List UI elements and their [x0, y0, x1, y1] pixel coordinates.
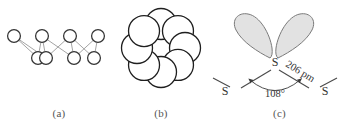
atom-label-left-s: S [222, 84, 229, 98]
chain-atom-circle [64, 30, 77, 43]
zigzag-chain-svg [0, 0, 118, 100]
atom-label-center-s: S [272, 55, 279, 69]
atom-label-right-s: S [322, 84, 329, 98]
chain-bonds [19, 40, 97, 55]
caption-a: (a) [0, 107, 118, 119]
bond-line-left [241, 70, 271, 88]
chain-atom-circle [8, 30, 21, 43]
panel-b-crown-ring: (b) [112, 0, 210, 128]
bond-length-label: 206 pm [284, 58, 317, 84]
figure-root: (a) (b) [0, 0, 351, 128]
chain-atom-circle [92, 30, 105, 43]
chain-bond-line [39, 42, 41, 51]
chain-atom-circle [88, 52, 101, 65]
crown-ring-svg [112, 0, 210, 100]
lone-pair-lobes [234, 14, 313, 58]
bond-geometry-svg: S S S 108° 206 pm [208, 0, 351, 100]
chain-bond-line [71, 42, 73, 51]
bond-angle-label: 108° [265, 88, 285, 99]
chain-atoms [8, 30, 105, 65]
chain-bond-line [43, 42, 45, 51]
lone-pair-lobe-right [276, 14, 314, 58]
chain-atom-circle [36, 30, 49, 43]
ring-atoms [122, 9, 201, 88]
ring-atom-circle [129, 16, 160, 47]
panel-c-bond-geometry: S S S 108° 206 pm (c) [208, 0, 351, 128]
caption-b: (b) [112, 107, 210, 119]
chain-atom-circle [40, 52, 53, 65]
chain-bond-line [19, 40, 34, 53]
caption-c: (c) [208, 107, 351, 119]
chain-bond-line [95, 42, 97, 51]
lone-pair-lobe-left [234, 14, 272, 58]
chain-bond-line [51, 40, 66, 53]
chain-atom-circle [68, 52, 81, 65]
panel-a-zigzag-chain: (a) [0, 0, 118, 128]
bond-lines [213, 70, 337, 88]
